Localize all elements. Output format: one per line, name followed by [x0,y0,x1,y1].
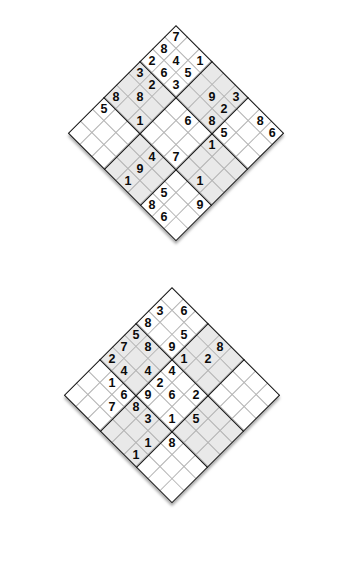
given-digit: 8 [164,435,181,452]
given-digit: 1 [204,137,221,154]
upper-grid[interactable]: 78241653332928888565611479115986 [68,25,284,241]
given-digit: 6 [180,113,197,130]
given-digit: 8 [131,89,148,106]
given-digit: 1 [119,173,136,190]
given-digit: 3 [168,77,185,94]
given-digit: 6 [164,387,181,404]
given-digit: 6 [264,125,281,142]
given-digit: 1 [127,447,144,464]
given-digit: 5 [95,101,112,118]
given-digit: 8 [139,339,156,356]
given-digit: 2 [200,351,217,368]
given-digit: 1 [164,411,181,428]
given-digit: 1 [131,113,148,130]
lower-grid[interactable]: 63858598271244242619615783811 [64,287,280,503]
given-digit: 7 [103,399,120,416]
given-digit: 7 [168,149,185,166]
given-digit: 5 [188,411,205,428]
given-digit: 6 [176,303,193,320]
given-digit: 1 [192,173,209,190]
given-digit: 2 [188,387,205,404]
puzzle-canvas: 7824165333292888856561147911598663858598… [0,0,344,569]
given-digit: 3 [139,411,156,428]
given-digit: 6 [155,209,172,226]
given-digit: 9 [192,197,209,214]
